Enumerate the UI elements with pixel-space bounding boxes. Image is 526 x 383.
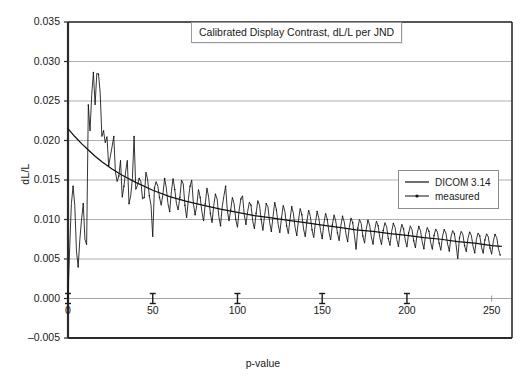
x-axis-tick-label: 150 — [302, 305, 342, 316]
x-axis-tick-label: 250 — [472, 305, 512, 316]
y-axis-tick-label: –0.005 — [6, 332, 60, 343]
y-axis-tick-label: 0.035 — [6, 16, 60, 27]
chart-figure: Calibrated Display Contrast, dL/L per JN… — [0, 0, 526, 383]
y-axis-tick-label: 0.000 — [6, 293, 60, 304]
chart-legend: DICOM 3.14 measured — [398, 170, 499, 209]
y-axis-tick-label: 0.025 — [6, 95, 60, 106]
legend-label-dicom: DICOM 3.14 — [435, 177, 491, 188]
y-axis-tick-label: 0.015 — [6, 174, 60, 185]
legend-key-solid-line-icon — [404, 177, 430, 187]
x-axis-tick-label: 50 — [133, 305, 173, 316]
x-axis-tick-label: 0 — [48, 305, 88, 316]
x-axis-tick-label: 100 — [217, 305, 257, 316]
y-axis-tick-label: 0.030 — [6, 56, 60, 67]
legend-label-measured: measured — [435, 191, 479, 202]
y-axis-tick-label: 0.010 — [6, 214, 60, 225]
legend-item-dicom: DICOM 3.14 — [404, 175, 491, 189]
x-axis-tick-label: 200 — [387, 305, 427, 316]
y-axis-tick-label: 0.020 — [6, 135, 60, 146]
legend-item-measured: measured — [404, 189, 491, 203]
y-axis-tick-label: 0.005 — [6, 253, 60, 264]
legend-key-line-marker-icon — [404, 191, 430, 201]
chart-title: Calibrated Display Contrast, dL/L per JN… — [191, 22, 402, 43]
x-axis-title: p-value — [0, 357, 526, 369]
